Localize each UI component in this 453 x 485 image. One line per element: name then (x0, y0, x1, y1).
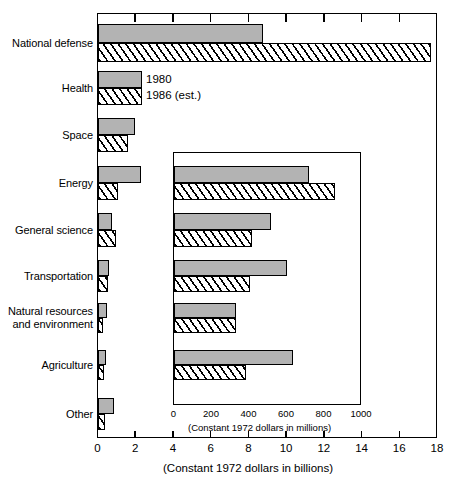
inset-bar-1986-2 (174, 276, 251, 292)
category-label-0: National defense (0, 37, 93, 50)
bar-1980-2 (98, 118, 136, 135)
tick-top-12 (323, 13, 325, 22)
inset-x-tick-label-200: 200 (195, 408, 227, 419)
inset-bar-1986-4 (174, 365, 246, 380)
x-tick-label-0: 0 (84, 442, 112, 454)
main-x-axis-title: (Constant 1972 dollars in billions) (163, 462, 333, 474)
category-label-6: Natural resources and environment (0, 305, 93, 330)
x-tick-label-10: 10 (272, 442, 300, 454)
inset-x-tick-label-400: 400 (233, 408, 265, 419)
tick-bottom-4 (172, 431, 174, 438)
inset-x-tick-label-800: 800 (308, 408, 340, 419)
inset-x-axis-title: (Constant 1972 dollars in millions) (188, 422, 331, 433)
category-label-5: Transportation (0, 270, 93, 283)
inset-bar-1986-3 (174, 318, 237, 333)
bar-1986-5 (98, 276, 108, 292)
x-tick-label-16: 16 (385, 442, 413, 454)
inset-bar-1980-3 (174, 303, 237, 318)
category-label-2: Space (0, 129, 93, 142)
federal-rd-budget-bar-chart: 024681012141618 National defenseHealthSp… (0, 0, 453, 485)
x-tick-label-4: 4 (159, 442, 187, 454)
legend-label-1980: 1980 (146, 71, 201, 87)
tick-top-8 (248, 13, 250, 22)
bar-1980-0 (98, 24, 264, 43)
tick-bottom-14 (361, 431, 363, 438)
x-tick-label-2: 2 (121, 442, 149, 454)
bar-1980-4 (98, 213, 112, 230)
bar-1980-8 (98, 398, 114, 414)
tick-top-10 (285, 13, 287, 22)
inset-bar-1980-1 (174, 213, 272, 230)
legend-label-1986: 1986 (est.) (146, 87, 201, 103)
inset-bar-1980-0 (174, 166, 309, 183)
category-label-3: Energy (0, 177, 93, 190)
inset-x-tick-label-600: 600 (270, 408, 302, 419)
x-tick-label-12: 12 (310, 442, 338, 454)
x-tick-label-6: 6 (197, 442, 225, 454)
inset-bar-1980-4 (174, 350, 293, 365)
tick-bottom-16 (399, 431, 401, 438)
bar-1986-6 (98, 318, 104, 333)
category-label-8: Other (0, 408, 93, 421)
bar-1986-2 (98, 135, 128, 152)
category-label-4: General science (0, 224, 93, 237)
tick-top-14 (361, 13, 363, 22)
tick-top-2 (134, 13, 136, 22)
category-label-7: Agriculture (0, 359, 93, 372)
inset-bar-1980-2 (174, 260, 287, 276)
inset-bar-1986-0 (174, 183, 335, 200)
bar-1986-0 (98, 43, 432, 62)
bar-1980-6 (98, 303, 107, 318)
bar-1980-3 (98, 166, 141, 183)
bar-1986-4 (98, 230, 117, 247)
legend: 1980 1986 (est.) (146, 71, 201, 103)
bar-1980-5 (98, 260, 109, 276)
tick-top-6 (210, 13, 212, 22)
bar-1986-7 (98, 365, 105, 380)
x-tick-label-18: 18 (423, 442, 451, 454)
x-tick-label-14: 14 (348, 442, 376, 454)
tick-bottom-2 (134, 431, 136, 438)
tick-top-16 (399, 13, 401, 22)
x-tick-label-8: 8 (234, 442, 262, 454)
inset-bar-1986-1 (174, 230, 253, 247)
bar-1980-1 (98, 71, 142, 88)
inset-x-tick-label-0: 0 (158, 408, 190, 419)
bar-1986-1 (98, 88, 142, 105)
inset-x-tick-label-1000: 1000 (345, 408, 377, 419)
bar-1986-3 (98, 183, 119, 200)
bar-1986-8 (98, 414, 106, 430)
category-label-1: Health (0, 82, 93, 95)
tick-top-4 (172, 13, 174, 22)
bar-1980-7 (98, 350, 106, 365)
